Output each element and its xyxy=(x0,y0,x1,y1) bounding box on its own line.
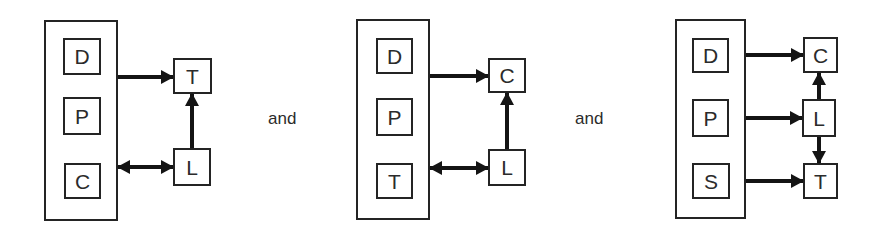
group3-node-c: C xyxy=(803,37,838,73)
figure-canvas: D P C T L and D P T C L and D P S C L T xyxy=(0,0,878,233)
group2-node-t: T xyxy=(376,163,413,199)
group1-arrow-l-to-t xyxy=(190,94,194,148)
group1-node-c: C xyxy=(64,163,101,199)
group2-node-c: C xyxy=(488,58,526,93)
group2-arrow-container-to-c xyxy=(430,74,488,78)
group3-arrow-s-to-t xyxy=(746,179,803,183)
group2-node-p: P xyxy=(376,98,413,136)
group2-arrow-container-l-double xyxy=(430,166,488,170)
group2-arrow-l-to-c xyxy=(505,93,509,149)
group3-arrow-d-to-c xyxy=(746,53,803,57)
group3-arrow-l-to-t xyxy=(817,137,821,163)
group3-arrow-l-to-c xyxy=(817,73,821,99)
group1-node-t: T xyxy=(173,58,212,94)
separator-and-1: and xyxy=(268,109,296,129)
group3-node-l: L xyxy=(802,99,836,137)
group1-arrow-container-l-double xyxy=(118,165,173,169)
group2-node-l: L xyxy=(488,149,526,186)
group1-node-l: L xyxy=(173,148,211,186)
group3-arrow-p-to-l xyxy=(746,116,802,120)
group1-node-d: D xyxy=(63,38,101,75)
group3-node-s: S xyxy=(692,163,730,199)
group1-node-p: P xyxy=(63,97,101,135)
group3-node-p: P xyxy=(692,99,729,137)
group2-node-d: D xyxy=(376,38,413,74)
separator-and-2: and xyxy=(575,109,603,129)
group1-arrow-container-to-t xyxy=(118,75,173,79)
group3-node-d: D xyxy=(692,38,729,73)
group3-node-t: T xyxy=(803,163,838,199)
